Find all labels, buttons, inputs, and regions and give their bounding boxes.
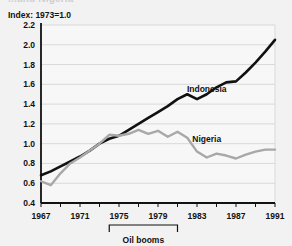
series-label-indonesia: Indonesia [187, 84, 227, 94]
x-tick-label: 1975 [110, 211, 129, 221]
x-tick-label: 1967 [32, 211, 51, 221]
y-tick-label: 1.2 [23, 119, 35, 129]
x-tick-label: 1987 [227, 211, 246, 221]
x-tick-label: 1991 [266, 211, 285, 221]
y-tick-label: 1.8 [23, 60, 35, 70]
axis-index-note: Index: 1973=1.0 [8, 10, 71, 20]
y-tick-label: 1.0 [23, 139, 35, 149]
oil-booms-label: Oil booms [123, 235, 165, 245]
y-tick-label: 2.0 [23, 40, 35, 50]
y-tick-label: 0.6 [23, 178, 35, 188]
plot-svg: IndonesiaNigeria196719711975197919831987… [0, 0, 292, 246]
series-label-nigeria: Nigeria [192, 134, 221, 144]
y-tick-label: 1.4 [23, 99, 35, 109]
x-tick-label: 1971 [71, 211, 90, 221]
y-tick-label: 0.4 [23, 198, 35, 208]
y-tick-label: 1.6 [23, 79, 35, 89]
y-tick-label: 0.8 [23, 158, 35, 168]
y-tick-label: 2.2 [23, 20, 35, 30]
plot-background [41, 25, 275, 203]
clipped-title: ...and Nigeria [8, 0, 74, 4]
oil-booms-bracket [109, 225, 177, 232]
x-tick-label: 1979 [149, 211, 168, 221]
x-tick-label: 1983 [188, 211, 207, 221]
chart-figure: ...and Nigeria Index: 1973=1.0 Indonesia… [0, 0, 292, 246]
